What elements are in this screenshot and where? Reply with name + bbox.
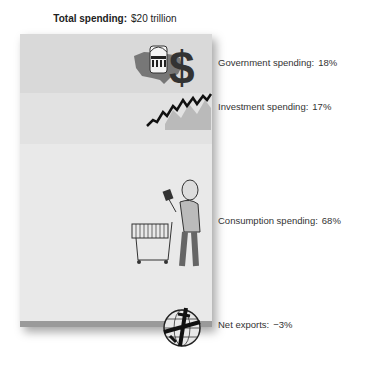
government-dollar-icon: $ (130, 36, 210, 92)
net-exports-label: Net exports:−3% (218, 319, 293, 330)
svg-text:$: $ (169, 42, 195, 92)
investment-label: Investment spending:17% (218, 101, 331, 112)
total-spending-value: $20 trillion (131, 13, 177, 24)
total-spending-label: Total spending: (53, 13, 127, 24)
net-exports-pct: −3% (273, 319, 292, 330)
government-name: Government spending: (218, 57, 314, 68)
consumption-name: Consumption spending: (218, 215, 318, 226)
consumption-label: Consumption spending:68% (218, 215, 341, 226)
net-exports-name: Net exports: (218, 319, 269, 330)
consumption-pct: 68% (322, 215, 341, 226)
investment-pct: 17% (312, 101, 331, 112)
globe-airplane-icon (160, 306, 204, 350)
rising-graph-icon (145, 90, 213, 132)
total-spending-title: Total spending:$20 trillion (0, 13, 230, 24)
government-label: Government spending:18% (218, 57, 337, 68)
government-pct: 18% (318, 57, 337, 68)
investment-name: Investment spending: (218, 101, 308, 112)
shopper-cart-icon (130, 172, 210, 270)
